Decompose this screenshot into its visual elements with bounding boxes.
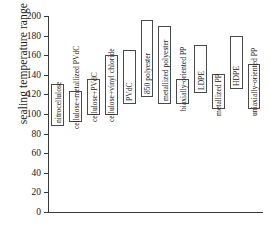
y-tick: 140 — [44, 75, 49, 76]
y-tick-label: 180 — [27, 30, 41, 43]
y-tick-label: 20 — [32, 186, 42, 199]
range-bar: nitrocellulose — [51, 84, 64, 126]
range-bar-label: metallized PP — [215, 74, 223, 116]
range-bar: cellulose+PVdC — [87, 79, 100, 115]
y-tick-label: 60 — [32, 147, 42, 160]
y-tick-label: 40 — [32, 167, 42, 180]
range-bar-label: metallized polyester — [161, 40, 169, 101]
chart-figure: sealing temperature range (°C) 020406080… — [0, 0, 270, 233]
range-bar: uniaxially-oriented PP — [248, 64, 261, 109]
range-bar: metallized polyester — [158, 26, 171, 104]
y-tick: 100 — [44, 114, 49, 115]
y-tick: 20 — [44, 192, 49, 193]
range-bar: LDPE — [194, 45, 207, 93]
y-tick: 0 — [44, 212, 49, 213]
y-tick-label: 120 — [27, 88, 41, 101]
y-tick: 200 — [44, 16, 49, 17]
range-bar: 850 polyester — [141, 20, 154, 97]
y-tick: 180 — [44, 36, 49, 37]
range-bar-label: 850 polyester — [144, 53, 152, 94]
y-tick: 120 — [44, 94, 49, 95]
y-tick: 40 — [44, 173, 49, 174]
range-bar-label: uniaxially-oriented PP — [251, 48, 259, 116]
range-bar-label: LDPE — [197, 71, 205, 90]
range-bar-label: biaxially-oriented PP — [179, 47, 187, 111]
plot-area: 020406080100120140160180200 nitrocellulo… — [48, 16, 263, 213]
range-bar-label: HDPE — [233, 66, 241, 86]
range-bar: cellulose+metallized PVdC — [69, 91, 82, 121]
y-tick-label: 80 — [32, 128, 42, 141]
range-bar-label: cellulose+vinyl chloride — [108, 48, 116, 122]
range-bar-label: PVdC — [126, 83, 134, 102]
range-bar-label: cellulose+PVdC — [90, 72, 98, 122]
y-tick-label: 160 — [27, 49, 41, 62]
range-bar-label: nitrocellulose — [54, 81, 62, 122]
range-bar: metallized PP — [212, 74, 225, 109]
y-tick: 60 — [44, 153, 49, 154]
y-tick-label: 140 — [27, 69, 41, 82]
range-bar: cellulose+vinyl chloride — [105, 55, 118, 115]
range-bar: biaxially-oriented PP — [176, 79, 189, 104]
range-bar: HDPE — [230, 36, 243, 89]
y-tick: 80 — [44, 134, 49, 135]
range-bar: PVdC — [123, 50, 136, 104]
y-tick: 160 — [44, 55, 49, 56]
y-tick-label: 0 — [36, 206, 41, 219]
range-bar-label: cellulose+metallized PVdC — [72, 45, 80, 128]
y-tick-label: 100 — [27, 108, 41, 121]
y-tick-label: 200 — [27, 10, 41, 23]
